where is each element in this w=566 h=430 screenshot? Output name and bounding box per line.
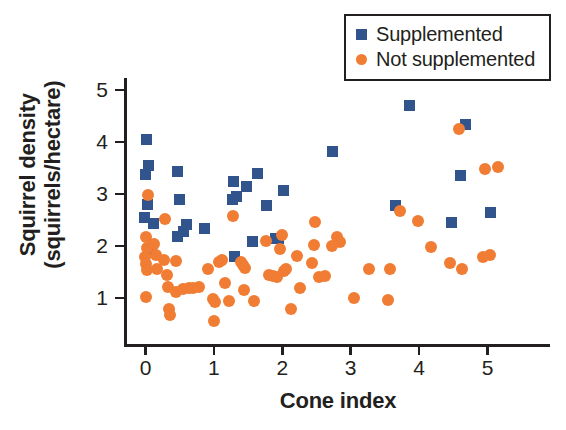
data-point-not-supplemented [223,295,235,307]
data-point-not-supplemented [276,229,288,241]
data-point-supplemented [247,236,258,247]
data-point-not-supplemented [177,283,189,295]
data-point-not-supplemented [163,303,175,315]
data-point-supplemented [141,134,152,145]
data-point-supplemented [241,181,252,192]
y-tick-label: 3 [84,183,108,204]
data-point-supplemented [227,194,238,205]
data-point-not-supplemented [170,255,182,267]
data-point-not-supplemented [159,213,171,225]
x-axis-title: Cone index [126,388,550,414]
legend-square-marker-icon [356,29,367,40]
data-point-not-supplemented [306,257,318,269]
data-point-not-supplemented [216,254,228,266]
data-point-not-supplemented [477,251,489,263]
data-point-not-supplemented [140,258,152,270]
data-point-not-supplemented [142,189,154,201]
data-point-not-supplemented [280,263,292,275]
data-point-not-supplemented [382,294,394,306]
data-point-supplemented [143,160,154,171]
x-tick-label: 1 [199,357,229,378]
data-point-not-supplemented [162,281,174,293]
y-tick-label: 2 [84,235,108,256]
data-point-not-supplemented [285,303,297,315]
data-point-not-supplemented [278,265,290,277]
y-axis-line [124,78,127,346]
data-point-supplemented [252,168,263,179]
data-point-not-supplemented [239,262,251,274]
legend-item-supplemented[interactable]: Supplemented [356,22,535,47]
data-point-supplemented [142,199,153,210]
data-point-not-supplemented [141,264,153,276]
data-point-supplemented [270,233,281,244]
x-tick-mark [144,346,147,355]
x-tick-label: 4 [404,357,434,378]
data-point-supplemented [140,169,151,180]
data-point-not-supplemented [331,231,343,243]
scatter-plot-figure: 12345 012345 Squirrel density (squirrels… [0,0,566,430]
data-point-not-supplemented [238,284,250,296]
x-tick-label: 2 [267,357,297,378]
data-point-not-supplemented [248,295,260,307]
x-tick-label: 0 [131,357,161,378]
y-tick-mark [115,89,124,92]
data-point-not-supplemented [235,256,247,268]
legend-item-not-supplemented[interactable]: Not supplemented [356,47,535,72]
data-point-supplemented [446,217,457,228]
data-point-not-supplemented [444,257,456,269]
data-point-not-supplemented [271,271,283,283]
data-point-not-supplemented [209,296,221,308]
data-point-not-supplemented [384,263,396,275]
data-point-supplemented [460,119,471,130]
data-point-not-supplemented [193,281,205,293]
legend-circle-marker-icon [356,54,367,65]
data-point-not-supplemented [492,161,504,173]
y-axis-title-line1: Squirrel density [16,40,41,310]
data-point-supplemented [455,170,466,181]
y-axis-title: Squirrel density (squirrels/hectare) [16,40,65,310]
data-point-supplemented [199,223,210,234]
data-point-not-supplemented [164,309,176,321]
data-point-not-supplemented [319,270,331,282]
data-point-not-supplemented [326,240,338,252]
x-tick-label: 3 [336,357,366,378]
data-point-not-supplemented [151,263,163,275]
data-point-not-supplemented [237,259,249,271]
data-point-not-supplemented [202,263,214,275]
data-point-not-supplemented [183,282,195,294]
legend-label-supplemented: Supplemented [376,23,503,46]
data-point-not-supplemented [267,270,279,282]
y-tick-label: 1 [84,287,108,308]
y-tick-mark [115,245,124,248]
data-point-supplemented [174,194,185,205]
data-point-not-supplemented [479,163,491,175]
y-tick-mark [115,297,124,300]
data-point-supplemented [181,219,192,230]
data-point-supplemented [278,185,289,196]
data-point-not-supplemented [274,243,286,255]
data-point-not-supplemented [158,254,170,266]
data-point-not-supplemented [227,210,239,222]
y-tick-mark [115,193,124,196]
data-point-not-supplemented [219,277,231,289]
data-point-not-supplemented [484,249,496,261]
data-point-not-supplemented [334,236,346,248]
data-point-not-supplemented [308,239,320,251]
data-point-not-supplemented [425,241,437,253]
y-tick-label: 5 [84,79,108,100]
data-point-supplemented [485,207,496,218]
data-point-not-supplemented [456,263,468,275]
data-point-supplemented [261,200,272,211]
data-point-not-supplemented [294,282,306,294]
data-point-not-supplemented [150,249,162,261]
data-point-supplemented [172,231,183,242]
x-tick-mark [486,346,489,355]
data-point-not-supplemented [291,250,303,262]
data-point-not-supplemented [187,282,199,294]
x-tick-mark [418,346,421,355]
data-point-not-supplemented [207,293,219,305]
data-point-supplemented [228,176,239,187]
data-point-supplemented [178,226,189,237]
data-point-not-supplemented [313,271,325,283]
chart-legend: Supplemented Not supplemented [344,14,551,81]
